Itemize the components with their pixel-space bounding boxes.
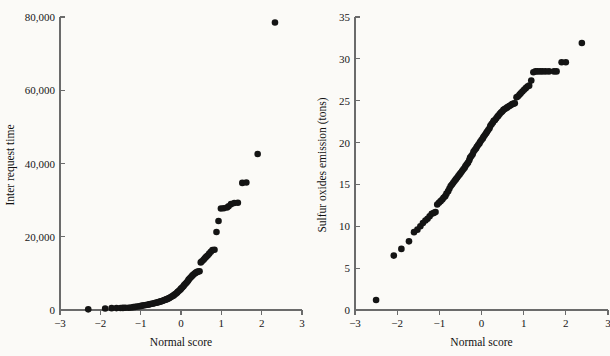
chart-panel-sulfur-oxides-emission: −3−2−1012305101520253035Normal scoreSulf… bbox=[305, 0, 610, 356]
x-tick-label: −1 bbox=[135, 317, 147, 329]
y-tick-label: 0 bbox=[345, 304, 351, 316]
data-point bbox=[243, 179, 250, 186]
data-point bbox=[579, 40, 586, 47]
x-tick-label: −2 bbox=[391, 317, 403, 329]
x-tick-label: −2 bbox=[94, 317, 106, 329]
x-tick-label: 0 bbox=[178, 317, 184, 329]
x-tick-label: −3 bbox=[54, 317, 66, 329]
y-tick-label: 25 bbox=[339, 95, 351, 107]
x-axis-title: Normal score bbox=[150, 336, 212, 348]
data-point bbox=[528, 77, 535, 84]
data-point bbox=[102, 305, 109, 312]
y-tick-label: 20 bbox=[339, 137, 351, 149]
y-axis-title: Inter request time bbox=[4, 124, 17, 205]
chart-svg-left: −3−2−10123020,00040,00060,00080,000Norma… bbox=[0, 0, 305, 356]
data-point bbox=[512, 100, 519, 107]
chart-svg-right: −3−2−1012305101520253035Normal scoreSulf… bbox=[305, 0, 610, 356]
y-tick-label: 20,000 bbox=[25, 231, 56, 243]
y-tick-label: 30 bbox=[339, 53, 351, 65]
y-tick-label: 15 bbox=[339, 178, 351, 190]
y-tick-label: 5 bbox=[345, 262, 351, 274]
data-point bbox=[272, 19, 279, 26]
axes-left bbox=[60, 17, 302, 315]
y-tick-label: 35 bbox=[339, 11, 351, 23]
y-axis-title: Sulfur oxides emission (tons) bbox=[316, 97, 329, 232]
scatter-points-left bbox=[85, 19, 278, 312]
x-tick-label: 1 bbox=[521, 317, 527, 329]
y-tick-label: 40,000 bbox=[25, 158, 56, 170]
data-point bbox=[254, 151, 261, 158]
x-axis-title: Normal score bbox=[450, 336, 512, 348]
data-point bbox=[390, 252, 397, 259]
x-tick-label: 2 bbox=[259, 317, 265, 329]
chart-panel-inter-request-time: −3−2−10123020,00040,00060,00080,000Norma… bbox=[0, 0, 305, 356]
x-tick-label: −1 bbox=[433, 317, 445, 329]
y-tick-label: 80,000 bbox=[25, 11, 56, 23]
data-point bbox=[215, 218, 222, 225]
data-point bbox=[373, 297, 380, 304]
x-tick-label: 1 bbox=[219, 317, 225, 329]
qq-plot-figure: −3−2−10123020,00040,00060,00080,000Norma… bbox=[0, 0, 610, 356]
data-point bbox=[213, 229, 220, 236]
axis-labels-left: −3−2−10123020,00040,00060,00080,000Norma… bbox=[4, 11, 305, 348]
data-point bbox=[398, 246, 405, 253]
data-point bbox=[406, 238, 413, 245]
x-tick-label: −3 bbox=[349, 317, 361, 329]
data-point bbox=[432, 209, 439, 216]
scatter-points-right bbox=[373, 40, 585, 304]
y-tick-label: 10 bbox=[339, 220, 351, 232]
data-point bbox=[553, 68, 560, 75]
data-point bbox=[85, 306, 92, 313]
axes-right bbox=[355, 17, 608, 315]
y-tick-label: 0 bbox=[50, 304, 56, 316]
x-tick-label: 3 bbox=[605, 317, 610, 329]
y-tick-label: 60,000 bbox=[25, 84, 56, 96]
x-tick-label: 0 bbox=[479, 317, 485, 329]
x-tick-label: 2 bbox=[563, 317, 569, 329]
data-point bbox=[563, 59, 570, 66]
data-point bbox=[196, 268, 203, 275]
data-point bbox=[211, 246, 218, 253]
data-point bbox=[235, 199, 242, 206]
